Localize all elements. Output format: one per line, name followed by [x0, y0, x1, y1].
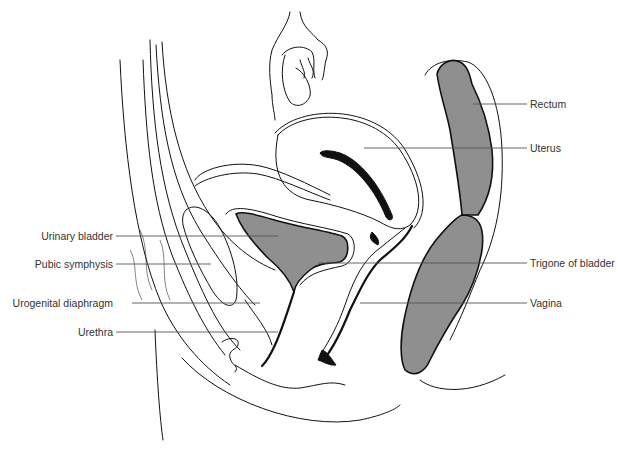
- label-pubic-symphysis: Pubic symphysis: [35, 258, 113, 270]
- uterus: [275, 113, 423, 228]
- label-vagina: Vagina: [530, 297, 562, 309]
- label-urinary-bladder: Urinary bladder: [41, 230, 113, 242]
- fallopian-tube-ovary: [270, 12, 328, 120]
- label-urethra: Urethra: [78, 326, 113, 338]
- anterior-abdominal-wall: [120, 40, 275, 385]
- label-rectum: Rectum: [530, 98, 566, 110]
- label-urogenital-diaphragm: Urogenital diaphragm: [13, 297, 113, 309]
- rectum: [401, 61, 502, 374]
- peritoneum: [195, 164, 330, 195]
- label-uterus: Uterus: [530, 142, 561, 154]
- perineum-outline: [182, 358, 400, 422]
- pubic-symphysis: [183, 207, 237, 306]
- urethra: [222, 300, 272, 372]
- label-trigone-of-bladder: Trigone of bladder: [530, 257, 615, 269]
- thigh-outline: [155, 330, 163, 440]
